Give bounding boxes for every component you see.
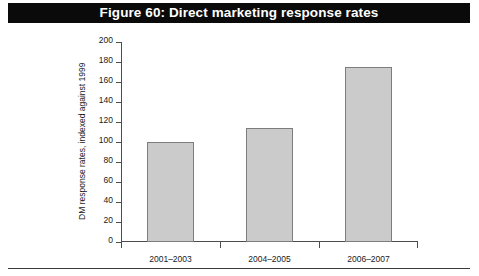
y-tick: 140: [121, 102, 122, 103]
y-tick-mark: [116, 42, 121, 43]
y-tick-label: 180: [99, 56, 113, 65]
bar: [345, 67, 392, 242]
y-tick-mark: [116, 202, 121, 203]
y-tick-label: 200: [99, 36, 113, 45]
y-tick-mark: [116, 222, 121, 223]
y-tick: 180: [121, 62, 122, 63]
bottom-divider: [8, 268, 470, 269]
y-tick-mark: [116, 162, 121, 163]
y-tick: 80: [121, 162, 122, 163]
x-tick-label: 2004–2005: [220, 255, 319, 264]
y-tick-label: 140: [99, 96, 113, 105]
x-tick-mark: [417, 242, 418, 248]
y-tick-mark: [116, 62, 121, 63]
y-tick-label: 80: [104, 156, 113, 165]
y-tick-mark: [116, 182, 121, 183]
x-tick-mark: [319, 242, 320, 248]
bar: [246, 128, 293, 242]
y-tick-mark: [116, 82, 121, 83]
y-tick: 60: [121, 182, 122, 183]
y-tick: 120: [121, 122, 122, 123]
figure-title-bar: Figure 60: Direct marketing response rat…: [8, 3, 470, 23]
y-tick-label: 100: [99, 136, 113, 145]
y-tick: 160: [121, 82, 122, 83]
y-tick: 100: [121, 142, 122, 143]
y-tick-mark: [116, 142, 121, 143]
x-tick-label: 2006–2007: [319, 255, 418, 264]
y-tick: 200: [121, 42, 122, 43]
y-tick-label: 20: [104, 216, 113, 225]
y-axis-title: DM response rates, indexed against 1999: [76, 38, 90, 244]
y-tick-mark: [116, 102, 121, 103]
bar: [147, 142, 194, 242]
x-tick-mark: [220, 242, 221, 248]
y-tick-label: 120: [99, 116, 113, 125]
y-axis-title-label: DM response rates, indexed against 1999: [79, 62, 88, 219]
y-tick-label: 160: [99, 76, 113, 85]
x-tick-mark: [121, 242, 122, 248]
y-tick-label: 0: [108, 236, 113, 245]
y-tick: 40: [121, 202, 122, 203]
y-tick-label: 40: [104, 196, 113, 205]
y-tick-label: 60: [104, 176, 113, 185]
y-tick-mark: [116, 122, 121, 123]
x-tick-label: 2001–2003: [121, 255, 220, 264]
page-title: Figure 60: Direct marketing response rat…: [100, 6, 379, 20]
plot-area: 020406080100120140160180200 2001–2003200…: [121, 42, 418, 242]
chart-figure: DM response rates, indexed against 1999 …: [0, 24, 479, 268]
y-tick: 20: [121, 222, 122, 223]
